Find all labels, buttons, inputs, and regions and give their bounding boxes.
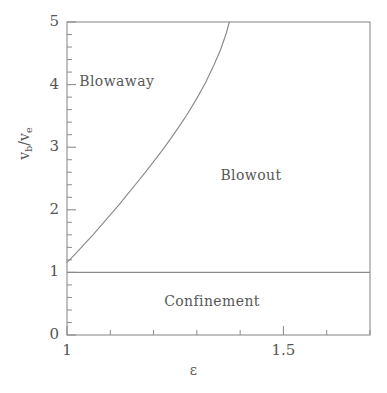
y-axis-title-den-sub: e [23, 127, 34, 133]
x-axis-minor-ticks [110, 330, 370, 335]
y-tick-label: 0 [49, 327, 59, 342]
y-axis-title-num-sub: b [23, 146, 34, 152]
y-axis-title-slash: / [16, 141, 32, 146]
x-tick-label: 1.5 [253, 343, 313, 358]
y-tick-label: 1 [49, 264, 59, 279]
chart-figure: 012345 11.5 BlowawayBlowoutConfinement v… [0, 0, 387, 393]
plot-frame [67, 22, 370, 335]
x-tick-label: 1 [37, 343, 97, 358]
y-axis-major-ticks [67, 22, 76, 335]
y-axis-title: vb/ve [16, 138, 33, 160]
y-tick-label: 4 [49, 77, 59, 92]
region-label-blowaway: Blowaway [79, 74, 154, 88]
x-axis-major-ticks [67, 326, 283, 335]
y-axis-title-num-base: v [16, 152, 32, 160]
region-label-blowout: Blowout [220, 168, 281, 182]
region-label-confinement: Confinement [164, 294, 260, 308]
y-axis-minor-ticks [67, 35, 72, 323]
x-axis-title: ε [0, 362, 387, 378]
y-tick-label: 5 [49, 14, 59, 29]
y-tick-label: 2 [49, 202, 59, 217]
y-axis-title-den-base: v [16, 133, 32, 141]
y-tick-label: 3 [49, 139, 59, 154]
blowaway-blowout-boundary-curve [67, 22, 229, 262]
